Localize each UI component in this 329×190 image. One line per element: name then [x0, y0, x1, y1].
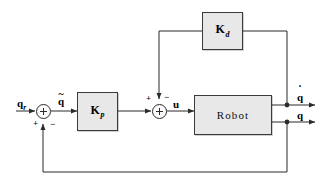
signal-label-position: q: [297, 110, 303, 121]
signal-label-control: u: [173, 99, 179, 110]
sum-control-sign-minus: −: [164, 93, 169, 102]
signal-label-reference: qr: [17, 98, 26, 112]
block-diagram: Kp Kd Robot + − + − qr ~q u ˙q q: [0, 0, 329, 190]
junction-dot-position: [285, 120, 290, 125]
sum-error-sign-plus: +: [33, 119, 38, 128]
dot-accent-icon: ˙: [298, 84, 302, 96]
gain-block-kd[interactable]: Kd: [202, 12, 243, 50]
tilde-accent-icon: ~: [58, 89, 63, 99]
gain-block-kp-label: Kp: [90, 104, 104, 119]
summing-junction-control[interactable]: [152, 104, 167, 119]
junction-dot-velocity: [285, 103, 290, 108]
gain-block-kp[interactable]: Kp: [77, 92, 118, 131]
summing-junction-error[interactable]: [36, 104, 51, 119]
gain-block-kd-label: Kd: [215, 23, 229, 38]
signal-label-error: ~q: [58, 96, 64, 107]
sum-control-sign-plus: +: [146, 94, 151, 103]
sum-error-sign-minus: −: [50, 120, 55, 129]
plant-block-robot-label: Robot: [217, 110, 249, 121]
plant-block-robot[interactable]: Robot: [194, 95, 272, 135]
signal-label-velocity: ˙q: [297, 92, 303, 103]
